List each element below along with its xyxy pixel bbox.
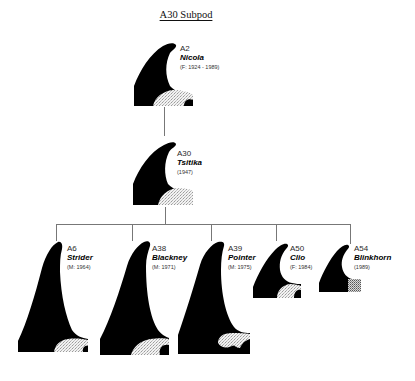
node-label-a30: A30 Tsitika (1947) (177, 149, 202, 177)
node-label-a38: A38 Blackney (M: 1971) (152, 244, 187, 272)
family-tree-diagram: A30 Subpod (0, 0, 415, 381)
whale-meta: (M: 1975) (228, 263, 256, 272)
whale-name: Tsitika (177, 158, 202, 167)
whale-meta: (1989) (354, 263, 391, 272)
whale-id: A6 (67, 244, 93, 253)
node-label-a39: A39 Pointer (M: 1975) (228, 244, 256, 272)
whale-id: A54 (354, 244, 391, 253)
node-label-a2: A2 Nicola (F: 1924 - 1989) (180, 44, 219, 72)
whale-meta: (1947) (177, 168, 202, 177)
whale-name: Blackney (152, 253, 187, 262)
whale-meta: (M: 1971) (152, 263, 187, 272)
whale-name: Strider (67, 253, 93, 262)
whale-name: Pointer (228, 253, 256, 262)
whale-id: A30 (177, 149, 202, 158)
whale-id: A38 (152, 244, 187, 253)
whale-meta: (M: 1964) (67, 263, 93, 272)
node-label-a54: A54 Blinkhorn (1989) (354, 244, 391, 272)
whale-id: A50 (290, 244, 312, 253)
whale-meta: (F: 1924 - 1989) (180, 63, 219, 72)
whale-meta: (F: 1984) (290, 263, 312, 272)
whale-name: Nicola (180, 53, 219, 62)
node-label-a50: A50 Clio (F: 1984) (290, 244, 312, 272)
connector-lines (56, 107, 351, 244)
whale-id: A2 (180, 44, 219, 53)
node-label-a6: A6 Strider (M: 1964) (67, 244, 93, 272)
whale-name: Clio (290, 253, 312, 262)
whale-id: A39 (228, 244, 256, 253)
whale-name: Blinkhorn (354, 253, 391, 262)
